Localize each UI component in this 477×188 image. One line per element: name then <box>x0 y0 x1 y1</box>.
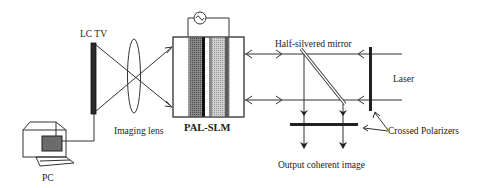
liquid-crystal-layer <box>212 37 225 117</box>
pc-computer-icon <box>23 122 74 166</box>
beam-lower <box>244 96 402 104</box>
lens-label: Imaging lens <box>114 126 164 136</box>
output-label: Output coherent image <box>278 160 365 170</box>
laser-label: Laser <box>393 74 415 84</box>
polarizer-pointer-arrows <box>363 112 388 131</box>
lctv-label: LC TV <box>80 29 107 39</box>
optical-setup-diagram: PC LC TV Imaging lens PAL-SLM <box>0 0 477 188</box>
output-polarizer <box>290 123 358 126</box>
lctv-panel <box>91 43 96 114</box>
polarizers-label: Crossed Polarizers <box>388 126 459 136</box>
pal-slm <box>173 37 244 117</box>
laser-polarizer <box>369 47 372 111</box>
pc-screen <box>42 136 62 151</box>
mirror-label: Half-silvered mirror <box>275 39 353 49</box>
beam-upper <box>244 50 402 58</box>
output-beams <box>300 54 347 149</box>
imaging-rays <box>96 45 172 111</box>
pc-label: PC <box>42 173 54 183</box>
half-silvered-mirror <box>301 49 345 104</box>
dielectric-mirror-layer <box>202 37 205 117</box>
pc-lctv-cable <box>62 114 94 141</box>
photoconductor-layer <box>190 37 202 117</box>
ac-source <box>188 12 229 37</box>
slm-label: PAL-SLM <box>184 122 231 133</box>
